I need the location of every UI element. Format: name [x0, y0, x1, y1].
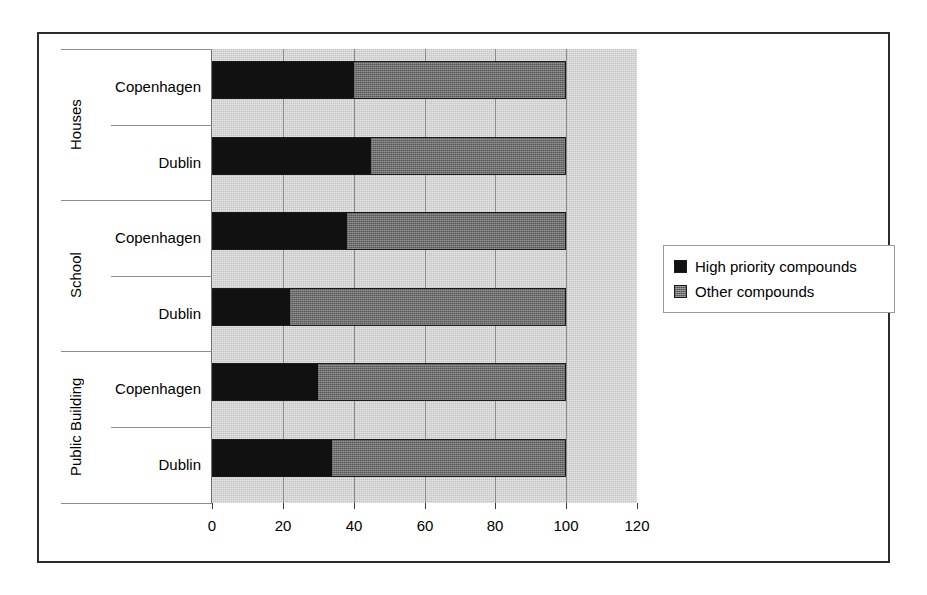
bar-segment-other	[290, 288, 566, 326]
x-tick-label-60: 60	[417, 517, 434, 534]
category-label-houses-dublin: Dublin	[158, 154, 201, 171]
bar-school-dublin[interactable]	[212, 288, 566, 326]
category-label-public-building-copenhagen: Copenhagen	[115, 380, 201, 397]
bar-public-building-dublin[interactable]	[212, 439, 566, 477]
bar-school-copenhagen[interactable]	[212, 212, 566, 250]
gridline-100	[566, 49, 567, 503]
bar-segment-other	[347, 212, 566, 250]
x-tick-80	[495, 503, 496, 509]
legend-item-other-compounds[interactable]: Other compounds	[674, 279, 884, 304]
x-tick-label-20: 20	[275, 517, 292, 534]
legend-label: Other compounds	[695, 283, 814, 300]
bar-segment-high-priority	[212, 212, 347, 250]
bar-segment-other	[318, 363, 566, 401]
plot-area	[212, 49, 637, 503]
gridline-80	[495, 49, 496, 503]
bar-segment-high-priority	[212, 137, 371, 175]
bar-segment-other	[354, 61, 566, 99]
category-label-school-dublin: Dublin	[158, 305, 201, 322]
bar-segment-high-priority	[212, 439, 332, 477]
category-label-school-copenhagen: Copenhagen	[115, 229, 201, 246]
bar-segment-high-priority	[212, 288, 290, 326]
x-tick-60	[425, 503, 426, 509]
bar-segment-high-priority	[212, 61, 354, 99]
x-tick-label-40: 40	[346, 517, 363, 534]
bar-segment-other	[371, 137, 566, 175]
x-tick-120	[637, 503, 638, 509]
bar-public-building-copenhagen[interactable]	[212, 363, 566, 401]
x-tick-40	[354, 503, 355, 509]
legend-label: High priority compounds	[695, 258, 857, 275]
group-label-school: School	[67, 200, 84, 351]
group-separator	[61, 503, 212, 504]
legend-item-high-priority-compounds[interactable]: High priority compounds	[674, 254, 884, 279]
x-tick-label-0: 0	[208, 517, 216, 534]
black-square-icon	[674, 260, 687, 273]
category-label-public-building-dublin: Dublin	[158, 456, 201, 473]
bar-segment-high-priority	[212, 363, 318, 401]
chart-legend: High priority compounds Other compounds	[663, 245, 895, 313]
group-label-houses: Houses	[67, 49, 84, 200]
bar-segment-other	[332, 439, 566, 477]
category-separator	[111, 125, 212, 126]
bar-houses-dublin[interactable]	[212, 137, 566, 175]
gridline-20	[283, 49, 284, 503]
chart-frame: Houses School Public Building Copenhagen…	[37, 32, 890, 563]
x-tick-0	[212, 503, 213, 509]
bar-houses-copenhagen[interactable]	[212, 61, 566, 99]
gridline-40	[354, 49, 355, 503]
category-separator	[111, 427, 212, 428]
x-tick-label-120: 120	[624, 517, 649, 534]
category-label-houses-copenhagen: Copenhagen	[115, 78, 201, 95]
x-tick-label-80: 80	[487, 517, 504, 534]
group-label-public-building: Public Building	[67, 351, 84, 503]
x-tick-20	[283, 503, 284, 509]
x-tick-label-100: 100	[553, 517, 578, 534]
category-separator	[111, 276, 212, 277]
x-tick-100	[566, 503, 567, 509]
gray-square-icon	[674, 285, 687, 298]
gridline-60	[425, 49, 426, 503]
